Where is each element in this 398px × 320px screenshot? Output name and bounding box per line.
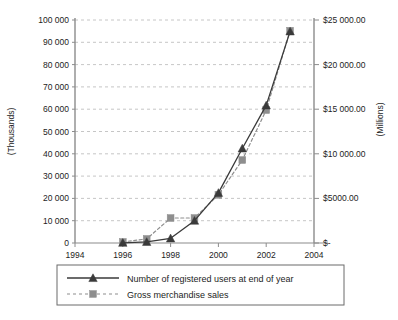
y2-axis-tick-label: $25 000.00 bbox=[323, 15, 366, 25]
y2-axis-tick-label: $- bbox=[323, 238, 331, 248]
legend-label: Gross merchandise sales bbox=[127, 290, 229, 300]
y2-axis-tick-label: $10 000.00 bbox=[323, 149, 366, 159]
y-axis-tick-label: 90 000 bbox=[43, 37, 69, 47]
y-axis-tick-label: 0 bbox=[64, 238, 69, 248]
x-axis-tick-label: 1998 bbox=[161, 250, 180, 260]
y2-axis-tick-label: $5000.00 bbox=[323, 193, 359, 203]
chart-container: 010 00020 00030 00040 00050 00060 00070 … bbox=[0, 0, 398, 320]
y-axis-tick-label: 40 000 bbox=[43, 149, 69, 159]
y-axis-tick-label: 10 000 bbox=[43, 216, 69, 226]
data-point-marker-square bbox=[90, 291, 97, 298]
y-axis-tick-label: 100 000 bbox=[38, 15, 69, 25]
chart-legend: Number of registered users at end of yea… bbox=[57, 265, 344, 305]
y2-axis-tick-label: $20 000.00 bbox=[323, 60, 366, 70]
line-chart: 010 00020 00030 00040 00050 00060 00070 … bbox=[0, 0, 398, 320]
y-axis-tick-label: 70 000 bbox=[43, 82, 69, 92]
y-axis-tick-label: 20 000 bbox=[43, 193, 69, 203]
x-axis-tick-label: 1996 bbox=[113, 250, 132, 260]
legend-label: Number of registered users at end of yea… bbox=[127, 274, 294, 284]
x-axis-tick-label: 1994 bbox=[66, 250, 85, 260]
y-axis-tick-label: 80 000 bbox=[43, 60, 69, 70]
y-axis-title: (Thousands) bbox=[6, 107, 16, 155]
x-axis-tick-label: 2004 bbox=[305, 250, 324, 260]
y-axis-tick-label: 30 000 bbox=[43, 171, 69, 181]
y-axis-tick-label: 60 000 bbox=[43, 104, 69, 114]
x-axis-tick-label: 2000 bbox=[209, 250, 228, 260]
y2-axis-title: (Millions) bbox=[375, 102, 385, 136]
y2-axis-tick-label: $15 000.00 bbox=[323, 104, 366, 114]
x-axis-tick-label: 2002 bbox=[257, 250, 276, 260]
y-axis-tick-label: 50 000 bbox=[43, 127, 69, 137]
data-point-marker-square bbox=[239, 157, 246, 164]
data-point-marker-square bbox=[167, 215, 174, 222]
